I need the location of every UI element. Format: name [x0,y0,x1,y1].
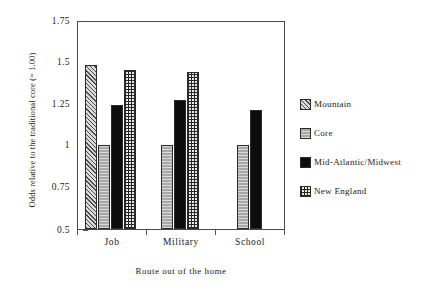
legend-label: Mountain [314,99,351,109]
y-tick-label: 1 [28,141,70,151]
x-axis-title: Route out of the home [77,266,285,276]
bars-layer [78,22,284,229]
bar-job-mountain [85,65,97,229]
legend-entry-core: Core [300,127,444,139]
legend-swatch-new-england-icon [300,186,311,197]
x-tick-mark [77,230,78,235]
y-axis-tick-labels: 1.75 1.5 1.25 1 0.75 0.5 [12,0,70,295]
bar-school-core [237,145,249,229]
bar-military-mid-atlantic-midwest [174,100,186,229]
legend-entry-new-england: New England [300,185,444,197]
legend-label: New England [314,186,367,196]
y-tick-mark [83,230,88,231]
x-tick-label-job: Job [77,237,147,247]
y-tick-label: 1.5 [28,58,70,68]
legend-swatch-core-icon [300,128,311,139]
chart-legend: Mountain Core Mid-Atlantic/Midwest New E… [300,98,444,214]
plot-area [77,21,285,230]
legend-label: Core [314,128,333,138]
bar-school-mid-atlantic-midwest [250,110,262,229]
bar-chart-figure: Odds relative to the traditional core (=… [0,0,444,295]
x-tick-label-military: Military [146,237,216,247]
legend-label: Mid-Atlantic/Midwest [314,157,401,167]
bar-job-core [98,145,110,229]
legend-entry-mountain: Mountain [300,98,444,110]
legend-entry-mid-atlantic-midwest: Mid-Atlantic/Midwest [300,156,444,168]
bar-job-mid-atlantic-midwest [111,105,123,229]
legend-swatch-mountain-icon [300,99,311,110]
y-tick-label: 1.25 [28,100,70,110]
x-tick-mark [146,230,147,235]
y-tick-label: 0.75 [28,183,70,193]
y-tick-label: 0.5 [28,226,70,236]
bar-job-new-england [124,70,136,229]
x-tick-mark [284,230,285,235]
x-tick-mark [215,230,216,235]
x-tick-label-school: School [215,237,285,247]
bar-military-core [161,145,173,229]
bar-military-new-england [187,72,199,229]
legend-swatch-mid-atlantic-midwest-icon [300,157,311,168]
y-tick-label: 1.75 [28,17,70,27]
